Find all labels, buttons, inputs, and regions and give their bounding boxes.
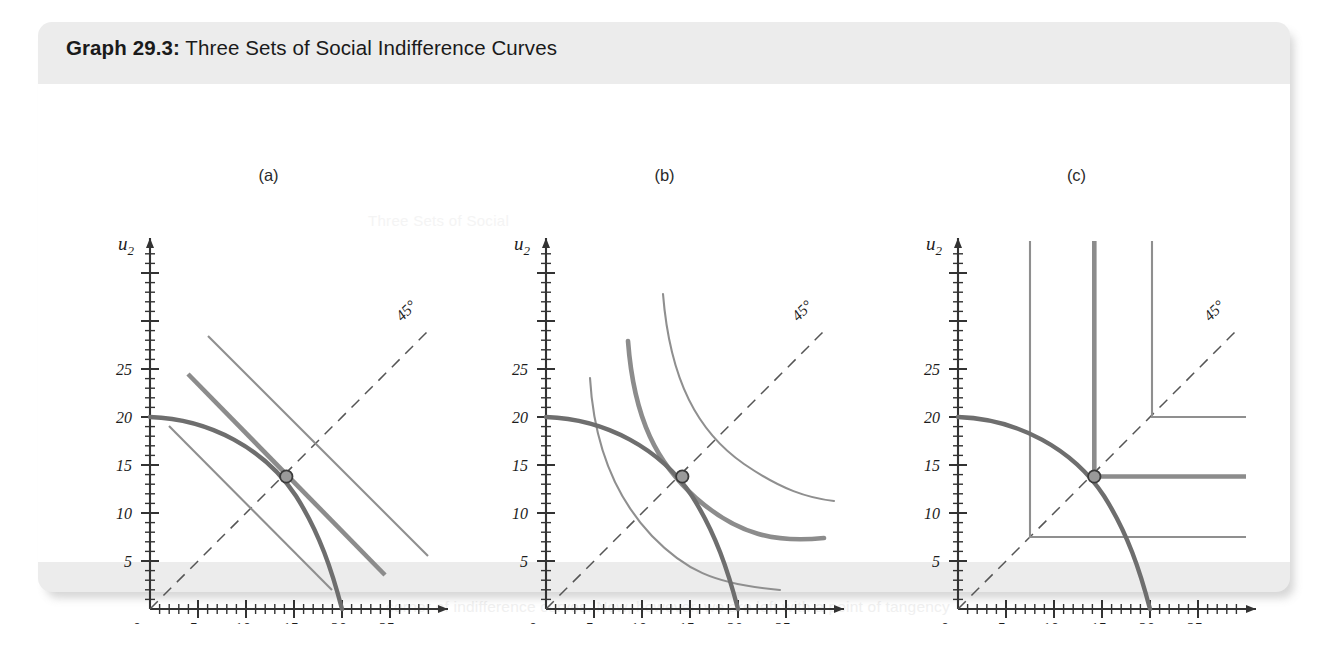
y-tick-10: 10 <box>512 505 528 522</box>
x-tick-15: 15 <box>678 620 694 624</box>
y-tick-5: 5 <box>932 553 940 570</box>
x-tick-10: 10 <box>630 620 646 624</box>
figure-number: Graph 29.3: <box>66 36 180 59</box>
figure-title: Graph 29.3: Three Sets of Social Indiffe… <box>66 36 557 60</box>
optimum-point-marker[interactable] <box>280 470 292 482</box>
y-tick-20: 20 <box>924 409 940 426</box>
indifference-curve-high <box>1152 241 1246 417</box>
y-axis-label: u2 <box>926 233 943 258</box>
y-axis-label: u2 <box>118 233 135 258</box>
indifference-curve-optimal <box>1094 241 1246 477</box>
figure-page: corner of indifference curves. Now, howe… <box>0 0 1336 666</box>
y-tick-25: 25 <box>924 361 940 378</box>
x-tick-15: 15 <box>1090 620 1106 624</box>
x-tick-5: 5 <box>585 620 593 624</box>
y-tick-15: 15 <box>512 457 528 474</box>
panel-a: (a) <box>60 146 477 624</box>
y-tick-10: 10 <box>924 505 940 522</box>
y-axis-arrow <box>146 238 154 248</box>
x-axis-label: u1 <box>428 617 444 624</box>
optimum-point-marker[interactable] <box>676 470 688 482</box>
indifference-curve-high <box>663 294 834 501</box>
panel-c: (c) <box>868 146 1285 624</box>
panel-a-plot: 45° u2 u1 <box>60 146 477 624</box>
x-tick-5: 5 <box>997 620 1005 624</box>
figure-title-text: Three Sets of Social Indifference Curves <box>185 36 557 59</box>
x-tick-20: 20 <box>1138 620 1154 624</box>
diagonal-45-label: 45° <box>1200 297 1227 324</box>
x-tick-10: 10 <box>234 620 250 624</box>
diagonal-45-label: 45° <box>788 297 815 324</box>
x-tick-25: 25 <box>378 620 394 624</box>
y-axis-label: u2 <box>514 233 531 258</box>
y-tick-5: 5 <box>124 553 132 570</box>
x-tick-20: 20 <box>726 620 742 624</box>
origin-label: 0 <box>528 620 536 624</box>
y-tick-25: 25 <box>512 361 528 378</box>
x-axis-label: u1 <box>1236 617 1252 624</box>
optimum-point-marker[interactable] <box>1088 470 1100 482</box>
figure-card: Graph 29.3: Three Sets of Social Indiffe… <box>38 22 1290 592</box>
x-axis-arrow <box>438 605 448 613</box>
x-axis-arrow <box>1246 605 1256 613</box>
y-axis-arrow <box>954 238 962 248</box>
y-tick-15: 15 <box>116 457 132 474</box>
x-tick-15: 15 <box>282 620 298 624</box>
x-tick-20: 20 <box>330 620 346 624</box>
y-tick-20: 20 <box>512 409 528 426</box>
panel-b-plot: 45° u2 u1 0 5 10 15 <box>456 146 873 624</box>
y-axis-arrow <box>542 238 550 248</box>
origin-label: 0 <box>940 620 948 624</box>
origin-label: 0 <box>132 620 140 624</box>
panel-c-plot: 45° u2 u1 0 5 10 15 <box>868 146 1285 624</box>
indifference-curve-low <box>1030 241 1246 537</box>
indifference-curve-optimal <box>628 341 824 539</box>
y-tick-25: 25 <box>116 361 132 378</box>
x-axis-label: u1 <box>824 617 840 624</box>
x-axis-arrow <box>834 605 844 613</box>
y-tick-15: 15 <box>924 457 940 474</box>
panel-b: (b) <box>456 146 873 624</box>
x-tick-25: 25 <box>774 620 790 624</box>
diagonal-45-label: 45° <box>392 297 419 324</box>
y-tick-5: 5 <box>520 553 528 570</box>
x-tick-10: 10 <box>1042 620 1058 624</box>
figure-plot-area: Three Sets of Social (a) <box>38 84 1290 562</box>
x-tick-5: 5 <box>189 620 197 624</box>
y-tick-20: 20 <box>116 409 132 426</box>
x-tick-25: 25 <box>1186 620 1202 624</box>
y-tick-10: 10 <box>116 505 132 522</box>
